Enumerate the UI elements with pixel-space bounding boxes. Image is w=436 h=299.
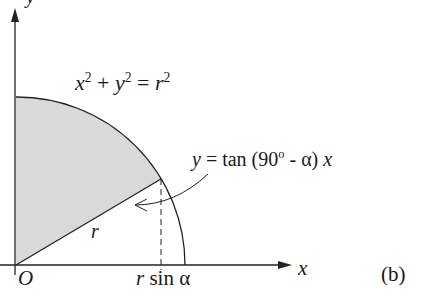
eq-plus: + bbox=[97, 70, 109, 95]
eq-y: y bbox=[115, 70, 125, 95]
line-eq-y: y bbox=[192, 148, 201, 170]
radius-label: r bbox=[91, 221, 99, 241]
y-axis-label: y bbox=[26, 0, 35, 6]
eq-x: x bbox=[75, 70, 85, 95]
tick-label-r-sin-alpha: r sin α bbox=[136, 268, 190, 289]
tick-sin-alpha: sin α bbox=[149, 266, 190, 290]
eq-exp1: 2 bbox=[85, 70, 92, 85]
eq-equals: = bbox=[137, 70, 149, 95]
circle-equation: x2 + y2 = r2 bbox=[75, 72, 170, 94]
tick-r: r bbox=[136, 266, 144, 290]
eq-exp2: 2 bbox=[125, 70, 132, 85]
eq-r: r bbox=[155, 70, 164, 95]
line-eq-rest: - α) bbox=[284, 148, 318, 170]
line-eq-tan: = tan (90 bbox=[206, 148, 278, 170]
x-axis-arrowhead bbox=[278, 261, 292, 269]
y-axis-arrowhead bbox=[11, 8, 19, 22]
line-equation: y = tan (90o - α) x bbox=[192, 149, 332, 169]
eq-exp3: 2 bbox=[164, 70, 171, 85]
shaded-sector bbox=[16, 97, 161, 265]
line-eq-degree: o bbox=[278, 147, 284, 161]
diagram-figure: y x2 + y2 = r2 y = tan (90o - α) x r O r… bbox=[0, 0, 436, 299]
line-eq-x: x bbox=[323, 148, 332, 170]
origin-label: O bbox=[18, 268, 33, 289]
x-axis-label: x bbox=[298, 258, 307, 279]
panel-label: (b) bbox=[381, 264, 406, 285]
